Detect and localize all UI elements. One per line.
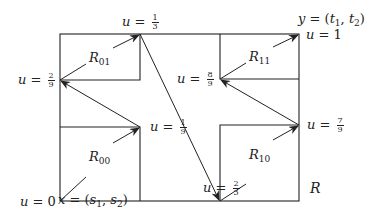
label-u-0: u = 0 xyxy=(20,195,56,208)
path-arrow-r11-a xyxy=(220,63,246,79)
label-u-2-3: u = 23 xyxy=(203,180,240,197)
label-start-point-x: x = (s1, s2) xyxy=(58,193,128,209)
path-arrow-1-3-to-2-3 xyxy=(140,34,219,200)
path-arrow-r11-b xyxy=(273,35,298,47)
path-arrow-r10-b xyxy=(273,126,298,140)
path-arrow-7-9-to-8-9 xyxy=(221,80,299,125)
label-u-2-9: u = 29 xyxy=(18,72,55,89)
label-u-1-9: u = 19 xyxy=(150,119,187,136)
label-u-7-9: u = 79 xyxy=(307,117,344,134)
path-arrow-r00-b xyxy=(113,128,139,143)
label-R00: R00 xyxy=(89,150,110,166)
label-R11: R11 xyxy=(249,50,270,66)
label-R: R xyxy=(310,181,321,195)
label-R10: R10 xyxy=(249,148,270,164)
label-u-1-3: u = 13 xyxy=(122,14,159,31)
label-R01: R01 xyxy=(89,51,110,67)
label-end-point-y: y = (t1, t2) xyxy=(298,12,365,28)
label-u-8-9: u = 89 xyxy=(177,71,214,88)
label-u-1: u = 1 xyxy=(306,28,342,41)
path-arrow-r01-a xyxy=(60,64,86,80)
path-arrow-1-9-to-2-9 xyxy=(61,81,140,127)
path-arrow-r01-b xyxy=(113,35,139,48)
